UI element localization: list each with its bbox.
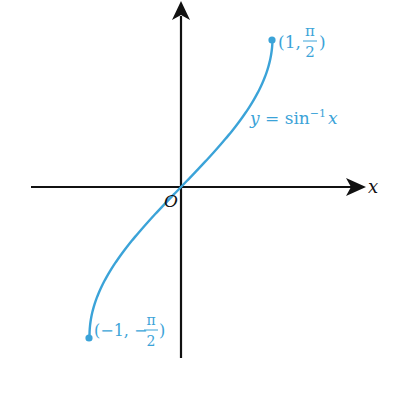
- top-point-label: (1, π 2 ): [278, 22, 326, 61]
- endpoint-bottom: [85, 334, 92, 341]
- origin-label: O: [164, 191, 178, 211]
- svg-text:(1,: (1,: [278, 32, 301, 52]
- curve-label: y = sin−1x: [249, 107, 338, 128]
- svg-text:2: 2: [305, 43, 315, 61]
- x-axis-label: x: [368, 176, 378, 197]
- arcsine-diagram: x O y = sin−1x (1, π 2 ) (−1, − π 2 ): [0, 0, 396, 395]
- bottom-point-label: (−1, − π 2 ): [94, 312, 165, 349]
- svg-text:): ): [319, 32, 326, 52]
- endpoint-top: [268, 36, 275, 43]
- svg-text:2: 2: [147, 333, 156, 349]
- svg-text:π: π: [305, 22, 315, 40]
- svg-text:): ): [159, 321, 165, 340]
- svg-text:π: π: [146, 312, 155, 328]
- svg-text:(−1, −: (−1, −: [94, 321, 147, 340]
